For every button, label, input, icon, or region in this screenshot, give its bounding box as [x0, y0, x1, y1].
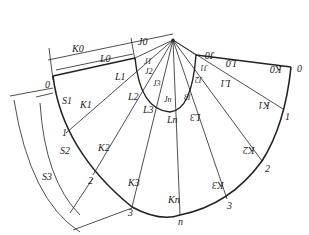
label-L2: L2	[128, 92, 139, 102]
label-S2: S2	[60, 146, 70, 156]
point-2-left: 2	[88, 176, 93, 186]
label-K3: K3	[128, 178, 140, 188]
label-L3: L3	[143, 105, 154, 115]
label-J3: J3	[153, 80, 161, 88]
label-Kn: Kn	[168, 195, 180, 205]
development-diagram: K0 L0 J0 J1 J2 J3 Jn L1 L2 L3 Ln K1 K2 K…	[0, 0, 309, 235]
label-L1-right: L1	[220, 78, 231, 88]
label-J2-right: J2	[195, 75, 203, 83]
label-L1: L1	[115, 72, 126, 82]
point-0-left: 0	[45, 80, 50, 90]
label-K0-right: K0	[270, 64, 282, 74]
label-K0: K0	[72, 44, 84, 54]
diagram-lines	[0, 0, 309, 235]
label-K1-right: K1	[258, 100, 270, 110]
point-3-left: 3	[128, 208, 133, 218]
label-J1: J1	[144, 58, 152, 66]
label-K3-right: K3	[212, 180, 224, 190]
point-3-right: 3	[227, 201, 232, 211]
label-L0-right: L0	[226, 58, 237, 68]
label-L3-right: L3	[190, 112, 201, 122]
label-J1-right: J1	[200, 63, 208, 71]
point-n: n	[178, 217, 183, 227]
label-K2: K2	[98, 143, 110, 153]
point-1-left: 1	[62, 128, 67, 138]
point-2-right: 2	[265, 164, 270, 174]
label-K1: K1	[80, 100, 92, 110]
label-J0: J0	[138, 37, 147, 47]
label-S1: S1	[62, 96, 72, 106]
label-J3-right: J3	[184, 92, 192, 100]
label-J2: J2	[145, 68, 153, 76]
label-K2-right: K2	[243, 145, 255, 155]
label-Ln: Ln	[167, 115, 178, 125]
label-J0-right: J0	[205, 50, 214, 60]
label-S3: S3	[42, 172, 52, 182]
point-1-right: 1	[285, 112, 290, 122]
label-L0: L0	[100, 54, 111, 64]
point-0-right: 0	[297, 64, 302, 74]
label-Jn: Jn	[164, 96, 172, 104]
